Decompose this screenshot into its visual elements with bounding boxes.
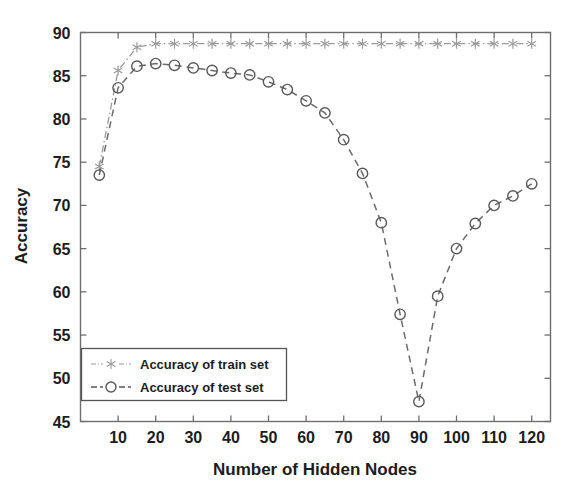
x-tick-label: 100 — [443, 429, 470, 446]
y-axis-title: Accuracy — [12, 187, 31, 264]
x-axis-tick-labels: 102030405060708090100110120 — [109, 429, 545, 446]
data-point-marker — [508, 191, 518, 201]
x-tick-label: 80 — [372, 429, 390, 446]
chart-figure: 102030405060708090100110120 455055606570… — [0, 0, 581, 495]
chart-legend[interactable]: Accuracy of train set Accuracy of test s… — [82, 349, 287, 401]
x-tick-label: 30 — [184, 429, 202, 446]
x-tick-label: 110 — [481, 429, 507, 446]
data-point-marker — [470, 218, 480, 228]
legend-label-test: Accuracy of test set — [140, 380, 264, 395]
data-point-marker — [189, 39, 198, 49]
x-tick-label: 70 — [335, 429, 353, 446]
y-tick-label: 50 — [53, 370, 71, 387]
y-tick-label: 75 — [53, 154, 71, 171]
y-tick-label: 90 — [53, 25, 71, 42]
y-tick-label: 45 — [53, 414, 71, 431]
x-axis-title: Number of Hidden Nodes — [213, 460, 417, 479]
data-point-marker — [509, 39, 518, 49]
y-tick-label: 70 — [53, 197, 71, 214]
y-tick-label: 80 — [53, 111, 71, 128]
y-tick-label: 85 — [53, 68, 71, 85]
series-train — [95, 39, 536, 172]
y-tick-label: 55 — [53, 327, 71, 344]
x-tick-label: 10 — [109, 429, 127, 446]
data-point-marker — [489, 200, 499, 210]
accuracy-line-chart: 102030405060708090100110120 455055606570… — [0, 0, 581, 495]
x-tick-label: 40 — [222, 429, 240, 446]
x-tick-label: 50 — [260, 429, 278, 446]
data-point-marker — [527, 39, 536, 49]
data-point-marker — [263, 77, 273, 87]
data-point-marker — [282, 84, 292, 94]
x-tick-label: 90 — [410, 429, 428, 446]
x-tick-label: 60 — [297, 429, 315, 446]
y-tick-label: 65 — [53, 241, 71, 258]
y-axis-tick-labels: 45505560657075808590 — [53, 25, 71, 431]
x-tick-label: 120 — [518, 429, 545, 446]
x-tick-label: 20 — [147, 429, 165, 446]
series-line — [99, 44, 531, 167]
y-tick-label: 60 — [53, 284, 71, 301]
legend-label-train: Accuracy of train set — [140, 357, 269, 372]
data-point-marker — [376, 218, 386, 228]
